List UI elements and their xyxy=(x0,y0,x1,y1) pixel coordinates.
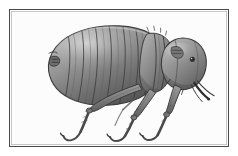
flea-proboscis xyxy=(191,81,214,102)
illustration-frame: Flea (Siphonaptera), lateral view xyxy=(9,9,229,147)
flea-head xyxy=(159,38,214,102)
flea-eye xyxy=(190,57,195,62)
flea-illustration xyxy=(10,10,228,146)
screenshot-canvas: Flea (Siphonaptera), lateral view xyxy=(0,0,238,156)
